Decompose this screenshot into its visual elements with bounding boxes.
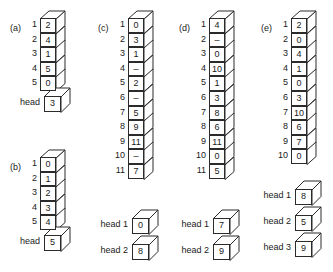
cube-stack-e: 1220344150637108697100	[275, 18, 307, 164]
cube-stack-a: 1224314550	[24, 18, 56, 91]
cell-index: 5	[275, 76, 291, 89]
head-cube: 8	[132, 244, 149, 260]
cell-index: 5	[112, 76, 128, 89]
head-value: 5	[44, 235, 61, 251]
cell-cube: –	[209, 33, 225, 48]
cell-index: 1	[112, 18, 128, 31]
cell-cube: 2	[291, 18, 307, 33]
cell-index: 9	[275, 135, 291, 148]
head-label: head 1	[176, 218, 213, 231]
cell-cube: 6	[291, 120, 307, 135]
head-value: 0	[132, 218, 149, 234]
cell-row: 911	[112, 135, 144, 150]
cell-cube: 1	[128, 47, 144, 62]
cube-stack-c: 1023314–526–758991110–117	[112, 18, 144, 179]
cell-index: 7	[112, 106, 128, 119]
cell-cube: 11	[209, 135, 225, 150]
cell-value: 1	[291, 62, 307, 77]
panel-label-d: (d)	[179, 24, 190, 33]
cell-row: 50	[24, 76, 56, 91]
cell-value: 2	[291, 18, 307, 33]
cell-value: 2	[128, 76, 144, 91]
cell-value: 1	[40, 47, 56, 62]
cell-row: 12	[275, 18, 307, 33]
cell-cube: –	[128, 62, 144, 77]
cell-value: 0	[209, 149, 225, 164]
panel-label-c: (c)	[98, 24, 109, 33]
cell-row: 41	[275, 62, 307, 77]
cell-cube: 8	[209, 106, 225, 121]
cell-cube: 5	[40, 62, 56, 77]
cell-cube: 10	[291, 106, 307, 121]
cell-cube: 4	[40, 33, 56, 48]
cell-row: 75	[112, 106, 144, 121]
cube-stack-d: 142–3041051637886911100115	[193, 18, 225, 179]
head-value: 8	[132, 244, 149, 260]
panel-label-b: (b)	[10, 163, 21, 172]
cell-row: 51	[193, 76, 225, 91]
head-cube: 5	[44, 235, 61, 251]
cell-value: 3	[209, 91, 225, 106]
cell-cube: 1	[40, 172, 56, 187]
cell-cube: 0	[209, 47, 225, 62]
cell-cube: 1	[291, 62, 307, 77]
cell-index: 1	[275, 18, 291, 31]
head-pointer: head 28	[95, 244, 149, 260]
cell-cube: –	[128, 149, 144, 164]
cell-index: 9	[112, 135, 128, 148]
linked-list-array-figure: (a)1224314550head3(b)1021324354head5(c)1…	[0, 0, 333, 272]
cell-row: 100	[275, 149, 307, 164]
cell-index: 6	[112, 91, 128, 104]
head-value: 7	[213, 218, 230, 234]
head-value: 9	[213, 244, 230, 260]
cell-row: 30	[193, 47, 225, 62]
cell-value: 0	[209, 47, 225, 62]
cell-row: 24	[24, 33, 56, 48]
cell-index: 3	[112, 47, 128, 60]
cell-row: 50	[275, 76, 307, 91]
cell-value: 1	[128, 47, 144, 62]
cell-index: 6	[193, 91, 209, 104]
cell-value: 0	[128, 18, 144, 33]
cell-index: 11	[193, 164, 209, 177]
cell-cube: –	[128, 91, 144, 106]
cell-cube: 1	[209, 76, 225, 91]
cell-index: 4	[112, 62, 128, 75]
cell-cube: 4	[40, 215, 56, 230]
cell-cube: 0	[291, 76, 307, 91]
cell-row: 52	[112, 76, 144, 91]
cell-cube: 7	[291, 135, 307, 150]
cell-row: 32	[24, 186, 56, 201]
cell-value: –	[128, 91, 144, 106]
cell-index: 2	[24, 33, 40, 46]
cell-index: 5	[193, 76, 209, 89]
head-value: 3	[44, 96, 61, 112]
cell-value: 4	[40, 33, 56, 48]
cell-index: 1	[24, 157, 40, 170]
cell-row: 89	[112, 120, 144, 135]
cell-value: 0	[40, 157, 56, 172]
head-pointer: head 39	[258, 241, 312, 257]
cell-index: 4	[24, 201, 40, 214]
cell-value: 11	[209, 135, 225, 150]
cell-cube: 11	[128, 135, 144, 150]
cell-index: 2	[24, 172, 40, 185]
cell-value: 7	[291, 135, 307, 150]
cell-cube: 2	[128, 76, 144, 91]
cell-index: 10	[193, 149, 209, 162]
cell-row: 31	[112, 47, 144, 62]
cell-value: 5	[209, 164, 225, 179]
cell-index: 5	[24, 215, 40, 228]
cell-row: 63	[275, 91, 307, 106]
head-cube: 9	[295, 241, 312, 257]
cell-value: 3	[40, 201, 56, 216]
head-cube: 5	[295, 215, 312, 231]
cell-cube: 3	[291, 91, 307, 106]
cell-index: 11	[112, 164, 128, 177]
cell-index: 3	[24, 47, 40, 60]
cell-index: 8	[193, 120, 209, 133]
cell-value: 3	[291, 91, 307, 106]
cell-cube: 0	[291, 33, 307, 48]
cell-row: 31	[24, 47, 56, 62]
cell-row: 6–	[112, 91, 144, 106]
